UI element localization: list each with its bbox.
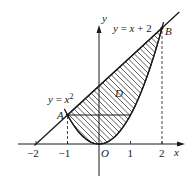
- region-d-label: D: [114, 87, 123, 99]
- diagram-canvas: y x O A B D y = x + 2 y = x2 −2−112: [0, 0, 191, 182]
- x-tick-label: 1: [128, 147, 134, 159]
- hatch-line: [0, 0, 92, 182]
- hatch-line: [0, 0, 26, 182]
- origin-label: O: [101, 147, 109, 159]
- hatch-line: [0, 0, 15, 182]
- hatch-line: [185, 0, 191, 182]
- x-axis-label: x: [173, 146, 179, 158]
- point-a: [66, 113, 69, 116]
- y-axis-label: y: [101, 12, 107, 24]
- hatch-line: [169, 0, 192, 182]
- y-axis-arrow-icon: [97, 25, 102, 33]
- parabola-equation-label: y = x2: [47, 92, 74, 105]
- point-a-label: A: [56, 109, 64, 121]
- hatch-line: [191, 0, 192, 182]
- hatch-line: [0, 0, 109, 182]
- x-tick-label: −1: [59, 147, 71, 159]
- hatch-line: [0, 0, 114, 182]
- x-tick-labels: −2−112: [27, 147, 165, 159]
- hatch-line: [180, 0, 192, 182]
- hatch-line: [0, 0, 103, 182]
- hatch-line: [0, 0, 4, 182]
- hatch-line: [0, 0, 98, 182]
- hatch-line: [0, 0, 87, 182]
- point-b-label: B: [165, 25, 172, 37]
- point-b: [160, 26, 163, 29]
- line-equation-label: y = x + 2: [112, 22, 152, 34]
- hatch-line: [0, 0, 48, 182]
- hatch-line: [0, 0, 21, 182]
- hatch-line: [0, 0, 10, 182]
- x-tick-label: −2: [27, 147, 39, 159]
- x-tick-label: 2: [159, 147, 165, 159]
